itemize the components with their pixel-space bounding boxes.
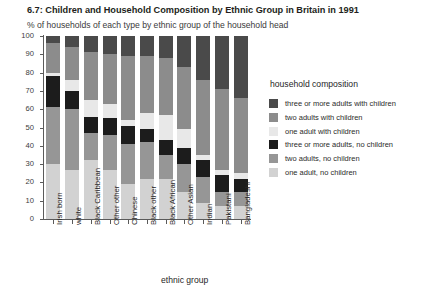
bar-segment <box>65 80 79 91</box>
bar-segment <box>234 98 248 173</box>
bar-segment <box>65 36 79 47</box>
bar-segment <box>140 142 154 179</box>
legend-item-label: two adults, no children <box>285 154 360 163</box>
y-axis-tick-label: 70 <box>8 87 34 95</box>
bar-segment <box>65 91 79 110</box>
bar-segment <box>234 173 248 179</box>
x-axis-title: ethnic group <box>161 275 208 285</box>
bar-segment <box>121 56 135 120</box>
bar-segment <box>121 120 135 126</box>
x-axis-category-label: Indian <box>206 204 214 225</box>
x-axis-category-label: Chinese <box>131 196 139 225</box>
bar-segment <box>84 36 98 53</box>
legend-item-label: one adult, no children <box>285 168 357 177</box>
bar-segment <box>84 133 98 161</box>
legend-item: one adult, no children <box>269 166 444 178</box>
bar-segment <box>103 36 117 55</box>
y-axis-tick-label: 0 <box>8 215 34 223</box>
y-axis-tick-label: 30 <box>8 160 34 168</box>
x-axis-tick <box>222 220 223 224</box>
bar-white <box>65 36 79 219</box>
bar-segment <box>177 147 191 164</box>
bar-segment <box>84 52 98 100</box>
x-axis-tick <box>184 220 185 224</box>
bar-segment <box>46 36 60 44</box>
bar-segment <box>177 129 191 148</box>
x-axis-tick <box>147 220 148 224</box>
bar-segment <box>121 36 135 57</box>
chart-subtitle: % of households of each type by ethnic g… <box>27 20 288 30</box>
legend-color-swatch <box>269 127 278 136</box>
y-axis-tick-label: 60 <box>8 105 34 113</box>
x-axis-category-label: Other Asian <box>187 184 195 225</box>
y-axis-tick-label: 40 <box>8 142 34 150</box>
bar-segment <box>215 175 229 192</box>
x-axis-tick <box>91 220 92 224</box>
plot-area <box>44 36 250 219</box>
bar-segment <box>65 47 79 80</box>
bar-segment <box>103 118 117 135</box>
legend-item-label: three or more adults, no children <box>285 140 393 149</box>
y-axis-tick-label: 90 <box>8 50 34 58</box>
bar-segment <box>84 100 98 117</box>
legend-item-label: one adult with children <box>285 127 360 136</box>
y-axis-tick-label: 20 <box>8 178 34 186</box>
bar-segment <box>121 125 135 144</box>
bar-segment <box>84 116 98 133</box>
bar-segment <box>103 103 117 118</box>
legend-color-swatch <box>269 113 278 122</box>
y-axis-tick-label: 10 <box>8 197 34 205</box>
x-axis-category-label: Black other <box>150 186 158 225</box>
bar-segment <box>159 155 173 179</box>
bar-segment <box>46 76 60 108</box>
y-axis-tick-label: 80 <box>8 69 34 77</box>
y-axis-tick <box>40 219 44 220</box>
bar-segment <box>215 169 229 175</box>
bar-segment <box>196 160 210 177</box>
bar-segment <box>65 109 79 170</box>
y-axis-tick-label: 100 <box>8 32 34 40</box>
bar-segment <box>215 36 229 89</box>
legend-item: three or more adults with children <box>269 98 444 110</box>
bar-segment <box>234 36 248 99</box>
legend-color-swatch <box>269 140 278 149</box>
legend-color-swatch <box>269 168 278 177</box>
bar-segment <box>159 140 173 155</box>
bar-segment <box>196 177 210 203</box>
bar-segment <box>196 80 210 155</box>
legend-item: two adults, no children <box>269 153 444 165</box>
legend: household composition three or more adul… <box>269 79 444 180</box>
bar-segment <box>196 36 210 80</box>
bar-segment <box>140 112 154 129</box>
legend-item: three or more adults, no children <box>269 139 444 151</box>
x-axis-category-label: white <box>75 207 83 225</box>
bar-segment <box>46 43 60 73</box>
legend-items: three or more adults with childrentwo ad… <box>269 98 444 178</box>
legend-item-label: two adults with children <box>285 113 363 122</box>
x-axis-category-label: Black African <box>169 180 177 225</box>
bar-segment <box>103 54 117 104</box>
x-axis-category-label: Black Caribbean <box>94 168 102 225</box>
bar-segment <box>140 129 154 142</box>
page-title: 6.7: Children and Household Composition … <box>27 5 359 15</box>
x-axis-category-label: Other other <box>113 186 121 225</box>
bar-chinese <box>121 36 135 219</box>
legend-item: two adults with children <box>269 112 444 124</box>
y-axis-tick-label: 50 <box>8 124 34 132</box>
bar-indian <box>196 36 210 219</box>
x-axis-tick <box>72 220 73 224</box>
bar-segment <box>159 36 173 58</box>
x-axis-tick <box>128 220 129 224</box>
bar-segment <box>121 144 135 185</box>
x-axis-tick <box>203 220 204 224</box>
bar-segment <box>46 107 60 164</box>
x-axis-category-label: Irish born <box>56 192 64 225</box>
bar-segment <box>46 72 60 76</box>
x-axis-tick <box>166 220 167 224</box>
bar-segment <box>103 134 117 169</box>
bar-segment <box>196 155 210 161</box>
bar-segment <box>177 36 191 68</box>
bar-segment <box>215 89 229 170</box>
legend-color-swatch <box>269 154 278 163</box>
bar-segment <box>140 56 154 113</box>
